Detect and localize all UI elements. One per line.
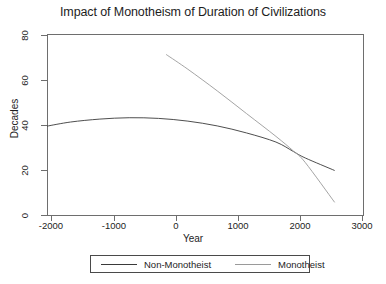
y-tick-label-60: 60: [19, 69, 30, 93]
x-tick-label-2000: 2000: [277, 220, 323, 231]
x-axis-label: Year: [0, 233, 386, 244]
x-tick-label-3000: 3000: [339, 220, 385, 231]
series-line-monotheist: [166, 54, 334, 202]
x-tick-label--1000: -1000: [91, 220, 137, 231]
x-tick-label-0: 0: [153, 220, 199, 231]
legend-label-non-monotheist: Non-Monotheist: [144, 259, 211, 270]
legend-swatch-non-monotheist: [101, 264, 137, 265]
legend-item-monotheist[interactable]: Monotheist: [225, 256, 324, 272]
y-tick-label-40: 40: [19, 114, 30, 138]
x-tick-label--2000: -2000: [28, 220, 74, 231]
series-line-non-monotheist: [47, 118, 335, 171]
chart-legend: Non-Monotheist Monotheist: [90, 255, 310, 273]
chart-title: Impact of Monotheism of Duration of Civi…: [0, 5, 386, 19]
y-tick-label-80: 80: [19, 24, 30, 48]
legend-item-non-monotheist[interactable]: Non-Monotheist: [91, 256, 211, 272]
legend-label-monotheist: Monotheist: [278, 259, 324, 270]
series-lines: [47, 34, 364, 216]
x-tick-label-1000: 1000: [215, 220, 261, 231]
legend-swatch-monotheist: [235, 264, 271, 265]
chart-figure: Impact of Monotheism of Duration of Civi…: [0, 0, 386, 284]
y-tick-label-20: 20: [19, 159, 30, 183]
